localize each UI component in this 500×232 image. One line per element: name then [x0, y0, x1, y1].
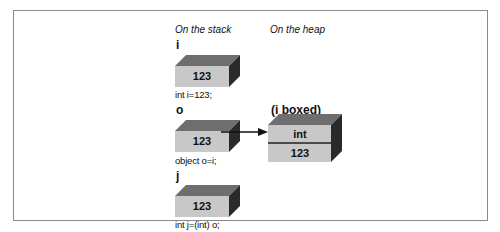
box-o-value: 123	[193, 135, 211, 147]
boxes-canvas: 123 123 123 int 123	[0, 0, 500, 232]
box-i: 123	[175, 55, 240, 87]
arrowhead-icon	[258, 128, 268, 136]
box-j: 123	[175, 185, 240, 217]
box-j-value: 123	[193, 200, 211, 212]
box-o: 123	[175, 120, 240, 152]
heap-box: int 123	[268, 114, 342, 162]
box-i-value: 123	[193, 70, 211, 82]
heap-type-label: int	[293, 128, 307, 140]
heap-value: 123	[291, 147, 309, 159]
